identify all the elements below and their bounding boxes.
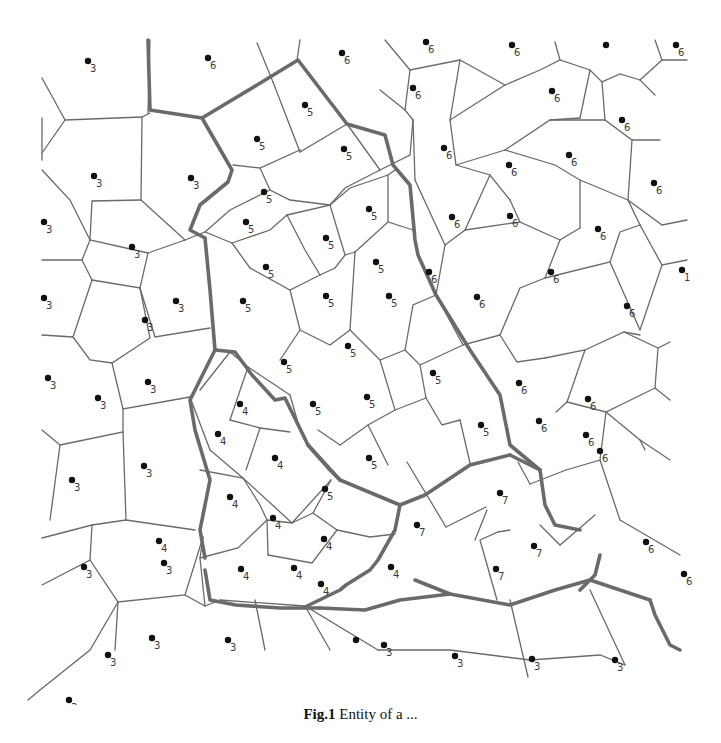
site-label: 6 bbox=[554, 93, 560, 104]
site-label: 4 bbox=[243, 571, 249, 582]
site-label: 6 bbox=[415, 90, 421, 101]
site: 3 bbox=[129, 244, 141, 260]
voronoi-sites: 3666665666556663356335556665566133555663… bbox=[41, 39, 693, 705]
site: 3 bbox=[41, 219, 53, 235]
site: 3 bbox=[149, 635, 161, 651]
site: 6 bbox=[509, 42, 521, 58]
site: 6 bbox=[643, 539, 655, 555]
site-label: 4 bbox=[232, 499, 238, 510]
site-label: 5 bbox=[378, 264, 384, 275]
site-label: 5 bbox=[371, 460, 377, 471]
site: 6 bbox=[585, 396, 597, 412]
site: 7 bbox=[493, 566, 505, 582]
site-label: 6 bbox=[210, 60, 216, 71]
site: 6 bbox=[681, 571, 693, 587]
site-label: 6 bbox=[678, 47, 684, 58]
site-label: 5 bbox=[369, 399, 375, 410]
site-label: 6 bbox=[624, 122, 630, 133]
site: 4 bbox=[215, 431, 227, 447]
site-label: 6 bbox=[571, 157, 577, 168]
site: 6 bbox=[205, 55, 217, 71]
site-label: 4 bbox=[296, 570, 302, 581]
site: 4 bbox=[272, 455, 284, 471]
site-label: 3 bbox=[46, 224, 52, 235]
site: 3 bbox=[85, 58, 97, 74]
site: 5 bbox=[430, 370, 442, 386]
site-label: 4 bbox=[275, 520, 281, 531]
site-dot bbox=[603, 42, 609, 48]
site-label: 6 bbox=[541, 423, 547, 434]
site-label: 7 bbox=[498, 571, 504, 582]
site-label: 3 bbox=[46, 300, 52, 311]
site: 3 bbox=[41, 295, 53, 311]
site: 5 bbox=[281, 359, 293, 375]
site: 3 bbox=[66, 697, 78, 705]
site: 6 bbox=[597, 448, 609, 464]
site: 6 bbox=[423, 39, 435, 55]
site-label: 3 bbox=[146, 468, 152, 479]
figure-caption: Fig.1 Entity of a ... bbox=[0, 706, 721, 723]
site: 6 bbox=[583, 432, 595, 448]
site-label: 4 bbox=[277, 460, 283, 471]
site-label: 7 bbox=[536, 548, 542, 559]
site: 3 bbox=[529, 656, 541, 672]
site: 3 bbox=[69, 477, 81, 493]
site-label: 6 bbox=[588, 437, 594, 448]
site-dot bbox=[353, 637, 359, 643]
site: 3 bbox=[91, 173, 103, 189]
site: 5 bbox=[240, 298, 252, 314]
site: 5 bbox=[243, 219, 255, 235]
site-label: 3 bbox=[457, 658, 463, 669]
site: 5 bbox=[323, 235, 335, 251]
site-label: 3 bbox=[110, 657, 116, 668]
site-label: 6 bbox=[686, 576, 692, 587]
site-label: 6 bbox=[521, 385, 527, 396]
caption-label: Fig.1 bbox=[303, 706, 335, 722]
site-label: 3 bbox=[193, 180, 199, 191]
site-label: 5 bbox=[328, 298, 334, 309]
site-label: 3 bbox=[96, 178, 102, 189]
site bbox=[603, 42, 609, 48]
site: 6 bbox=[449, 214, 461, 230]
site: 3 bbox=[142, 317, 154, 333]
site: 4 bbox=[227, 494, 239, 510]
site: 6 bbox=[651, 180, 663, 196]
site-label: 5 bbox=[371, 211, 377, 222]
site: 5 bbox=[261, 189, 273, 205]
site: 3 bbox=[45, 375, 57, 391]
site: 3 bbox=[145, 379, 157, 395]
site: 5 bbox=[478, 422, 490, 438]
site-label: 7 bbox=[502, 495, 508, 506]
site: 5 bbox=[341, 146, 353, 162]
site-label: 3 bbox=[617, 662, 623, 673]
site-label: 4 bbox=[393, 569, 399, 580]
site: 5 bbox=[366, 206, 378, 222]
site-label: 7 bbox=[419, 527, 425, 538]
site-label: 5 bbox=[245, 303, 251, 314]
site: 6 bbox=[339, 50, 351, 66]
site-label: 3 bbox=[150, 384, 156, 395]
site-label: 3 bbox=[50, 380, 56, 391]
site-label: 5 bbox=[307, 107, 313, 118]
site-label: 5 bbox=[248, 224, 254, 235]
site: 6 bbox=[619, 117, 631, 133]
site-label: 5 bbox=[483, 427, 489, 438]
site-label: 4 bbox=[326, 541, 332, 552]
site-label: 6 bbox=[428, 44, 434, 55]
site-label: 6 bbox=[454, 219, 460, 230]
site: 4 bbox=[318, 581, 330, 597]
site: 6 bbox=[441, 145, 453, 161]
site bbox=[353, 637, 359, 643]
site-label: 6 bbox=[590, 401, 596, 412]
site: 4 bbox=[156, 538, 168, 554]
site: 5 bbox=[254, 136, 266, 152]
site: 3 bbox=[81, 564, 93, 580]
site-label: 3 bbox=[386, 647, 392, 658]
site-label: 1 bbox=[684, 272, 690, 283]
site: 3 bbox=[225, 637, 237, 653]
site: 6 bbox=[506, 162, 518, 178]
site-label: 6 bbox=[656, 185, 662, 196]
site: 7 bbox=[497, 490, 509, 506]
site-label: 3 bbox=[86, 569, 92, 580]
site-label: 6 bbox=[479, 299, 485, 310]
